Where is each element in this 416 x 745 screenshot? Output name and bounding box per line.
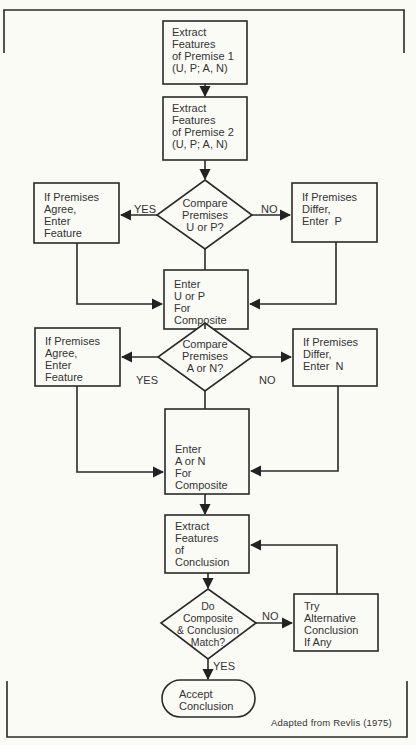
node-accept: Accept Conclusion bbox=[179, 688, 233, 712]
node-enter-an: Enter A or N For Composite bbox=[175, 443, 228, 491]
edge-label-no-2: NO bbox=[259, 374, 276, 386]
node-extract-conclusion: Extract Features of Conclusion bbox=[175, 520, 229, 568]
edge-label-yes-2: YES bbox=[136, 374, 158, 386]
node-agree-1: If Premises Agree, Enter Feature bbox=[44, 191, 99, 239]
edge-label-yes-1: YES bbox=[134, 203, 156, 215]
node-match: Do Composite & Conclusion Match? bbox=[168, 600, 248, 648]
node-extract-premise2: Extract Features of Premise 2 (U, P; A, … bbox=[172, 102, 234, 150]
node-extract-premise1: Extract Features of Premise 1 (U, P; A, … bbox=[172, 26, 234, 74]
node-compare-up: Compare Premises U or P? bbox=[172, 197, 238, 233]
node-enter-up: Enter U or P For Composite bbox=[174, 278, 227, 326]
edge-label-no-3: NO bbox=[262, 610, 279, 622]
figure-credit: Adapted from Revlis (1975) bbox=[271, 717, 392, 728]
edge-label-no-1: NO bbox=[261, 203, 278, 215]
node-agree-2: If Premises Agree, Enter Feature bbox=[45, 335, 100, 383]
edge-label-yes-3: YES bbox=[213, 660, 235, 672]
node-try-alternative: Try Alternative Conclusion If Any bbox=[304, 600, 358, 648]
node-compare-an: Compare Premises A or N? bbox=[172, 338, 238, 374]
node-differ-p: If Premises Differ, Enter P bbox=[302, 191, 357, 227]
node-differ-n: If Premises Differ, Enter N bbox=[303, 336, 358, 372]
